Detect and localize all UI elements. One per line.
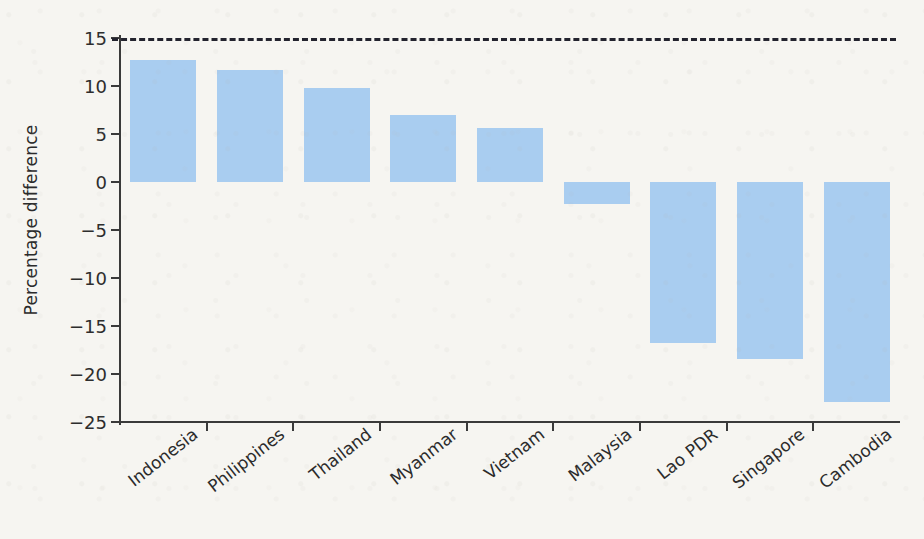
bar (477, 128, 543, 182)
bar (304, 88, 370, 182)
bar (737, 182, 803, 359)
y-tick-mark (111, 421, 120, 423)
bar (824, 182, 890, 402)
plot-area: 151050−5−10−15−20−25 (120, 38, 900, 422)
y-tick-mark (111, 325, 120, 327)
y-tick-mark (111, 181, 120, 183)
bar (130, 60, 196, 182)
y-axis-title-text: Percentage difference (21, 125, 41, 316)
x-category-label: Cambodia (815, 424, 895, 493)
y-tick-label: −15 (69, 316, 107, 337)
x-category-label: Malaysia (564, 424, 635, 486)
x-category-label: Singapore (728, 424, 808, 493)
bar-chart-figure: Percentage difference 151050−5−10−15−20−… (0, 0, 924, 539)
bar (217, 70, 283, 182)
y-tick-label: 0 (96, 172, 107, 193)
x-category-label: Thailand (305, 424, 375, 485)
x-category-label: Indonesia (125, 424, 202, 490)
x-category-label: Lao PDR (653, 424, 721, 483)
bar (650, 182, 716, 343)
bar (564, 182, 630, 204)
y-tick-mark (111, 277, 120, 279)
x-axis-category-labels: IndonesiaPhilippinesThailandMyanmarVietn… (120, 424, 900, 539)
y-tick-label: 15 (84, 28, 107, 49)
x-category-label: Myanmar (386, 424, 461, 489)
bar (390, 115, 456, 182)
x-axis-line (112, 421, 900, 423)
y-tick-label: −10 (69, 268, 107, 289)
x-category-label: Philippines (204, 424, 288, 496)
y-tick-mark (111, 85, 120, 87)
zero-reference-line (112, 38, 896, 41)
y-tick-label: −20 (69, 364, 107, 385)
y-tick-mark (111, 373, 120, 375)
y-tick-label: 10 (84, 76, 107, 97)
x-category-label: Vietnam (480, 424, 548, 483)
y-tick-label: 5 (96, 124, 107, 145)
y-axis-title: Percentage difference (14, 0, 48, 440)
y-tick-label: −25 (69, 412, 107, 433)
y-tick-mark (111, 133, 120, 135)
y-tick-mark (111, 229, 120, 231)
y-tick-label: −5 (80, 220, 107, 241)
